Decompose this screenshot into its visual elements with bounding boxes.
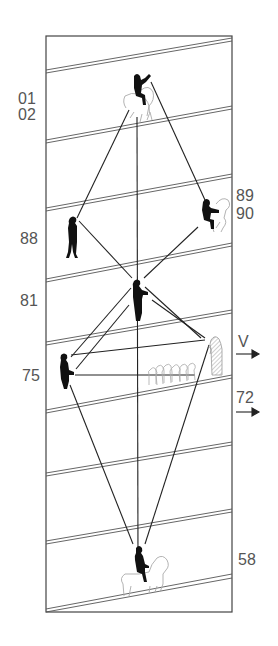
horseman-top-figure bbox=[124, 74, 154, 122]
horseman-right-figure bbox=[202, 199, 230, 232]
label-02: 02 bbox=[18, 106, 36, 123]
standing-person-left-figure bbox=[66, 217, 78, 259]
label-72: 72 bbox=[236, 389, 254, 406]
diagram-frame bbox=[46, 36, 232, 612]
sight-line-diagram bbox=[0, 0, 278, 646]
label-81: 81 bbox=[20, 292, 38, 309]
label-58: 58 bbox=[238, 551, 256, 568]
label-01: 01 bbox=[18, 90, 36, 107]
label-90: 90 bbox=[236, 205, 254, 222]
label-88: 88 bbox=[20, 230, 38, 247]
label-75: 75 bbox=[22, 367, 40, 384]
label-v: V bbox=[238, 333, 249, 350]
horseman-bottom-figure bbox=[121, 546, 168, 596]
sloping-bands bbox=[46, 38, 232, 612]
hatched-statue-figure bbox=[207, 337, 222, 375]
direction-arrows bbox=[236, 350, 259, 416]
crowd-outline-figure bbox=[148, 363, 195, 385]
label-89: 89 bbox=[236, 187, 254, 204]
standing-person-lower-left-figure bbox=[60, 354, 74, 390]
standing-person-center-figure bbox=[133, 280, 148, 322]
